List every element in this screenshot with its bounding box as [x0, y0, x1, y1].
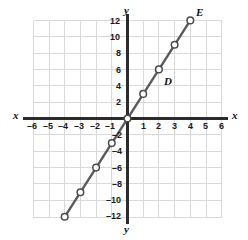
y-tick-label-neg12: –12 — [106, 212, 121, 221]
data-point-origin — [124, 115, 131, 122]
graph-canvas — [0, 0, 248, 240]
x-tick-label-6: 6 — [219, 122, 224, 131]
y-tick-label-12: 12 — [110, 17, 120, 26]
data-point-d — [156, 66, 163, 73]
y-axis-label-top: y — [124, 5, 129, 16]
x-tick-label-1: 1 — [141, 122, 146, 131]
y-tick-label-neg4: –4 — [112, 147, 122, 156]
y-tick-label-10: 10 — [110, 33, 120, 42]
x-axis-label-right: x — [232, 110, 238, 121]
x-tick-label-5: 5 — [203, 122, 208, 131]
y-axis-label-bottom: y — [124, 224, 129, 235]
y-tick-label-8: 8 — [116, 49, 121, 58]
data-point — [140, 91, 147, 98]
x-tick-label-neg3: –3 — [74, 122, 84, 131]
x-tick-label-2: 2 — [156, 122, 161, 131]
x-tick-label-neg6: –6 — [27, 122, 37, 131]
data-point — [93, 164, 100, 171]
y-tick-label-neg2: –2 — [112, 131, 122, 140]
point-label-e: E — [196, 7, 203, 18]
y-tick-label-neg10: –10 — [106, 196, 121, 205]
x-tick-label-3: 3 — [172, 122, 177, 131]
x-tick-label-neg4: –4 — [58, 122, 68, 131]
y-tick-label-neg6: –6 — [112, 164, 122, 173]
data-point — [77, 189, 84, 196]
data-point-e — [187, 17, 194, 24]
x-tick-label-neg5: –5 — [43, 122, 53, 131]
x-tick-label-4: 4 — [188, 122, 193, 131]
point-label-d: D — [164, 76, 172, 87]
y-tick-label-4: 4 — [116, 82, 121, 91]
coordinate-plane-graph: –6 –5 –4 –3 –2 –1 1 2 3 4 5 6 12 10 8 6 … — [0, 0, 248, 240]
x-axis-label-left: x — [13, 110, 19, 121]
data-point — [61, 214, 68, 221]
x-tick-label-neg2: –2 — [90, 122, 100, 131]
data-point — [171, 42, 178, 49]
y-tick-label-neg8: –8 — [112, 180, 122, 189]
y-tick-label-2: 2 — [116, 98, 121, 107]
y-tick-label-6: 6 — [116, 66, 121, 75]
